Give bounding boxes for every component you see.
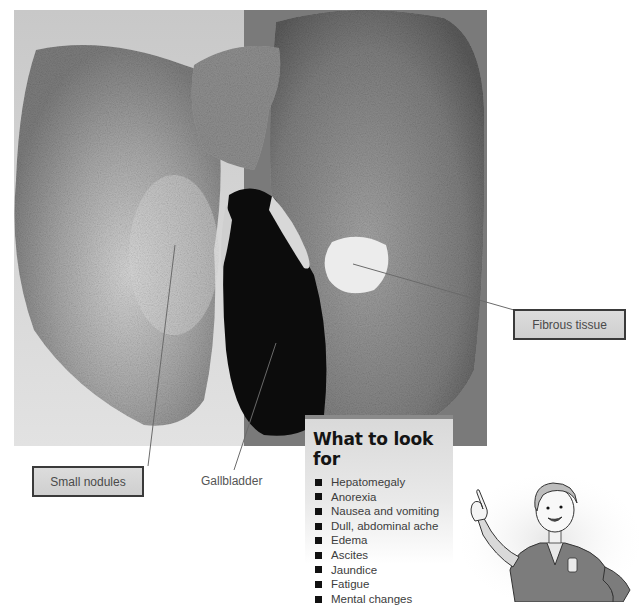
panel-title: What to look for [313,429,453,469]
symptom-list: Hepatomegaly Anorexia Nausea and vomitin… [305,475,453,606]
square-bullet-icon [315,581,322,588]
list-item: Fatigue [315,577,453,592]
list-item: Anorexia [315,490,453,505]
square-bullet-icon [315,523,322,530]
list-item: Jaundice [315,563,453,578]
square-bullet-icon [315,479,322,486]
square-bullet-icon [315,566,322,573]
small-nodules-label: Small nodules [50,475,125,489]
fibrous-tissue-label: Fibrous tissue [532,318,607,332]
fibrous-tissue-label-box: Fibrous tissue [513,309,626,340]
what-to-look-for-panel: What to look for Hepatomegaly Anorexia N… [305,415,453,600]
square-bullet-icon [315,537,322,544]
list-item: Ascites [315,548,453,563]
nurse-illustration [455,455,641,602]
liver-photo [14,10,487,446]
list-item: Nausea and vomiting [315,504,453,519]
square-bullet-icon [315,508,322,515]
list-item: Dull, abdominal ache [315,519,453,534]
square-bullet-icon [315,552,322,559]
gallbladder-label: Gallbladder [201,474,262,488]
small-nodules-label-box: Small nodules [32,466,144,497]
square-bullet-icon [315,493,322,500]
list-item: Mental changes [315,592,453,606]
square-bullet-icon [315,596,322,603]
list-item: Edema [315,533,453,548]
list-item: Hepatomegaly [315,475,453,490]
liver-photo-graphic [14,10,487,446]
